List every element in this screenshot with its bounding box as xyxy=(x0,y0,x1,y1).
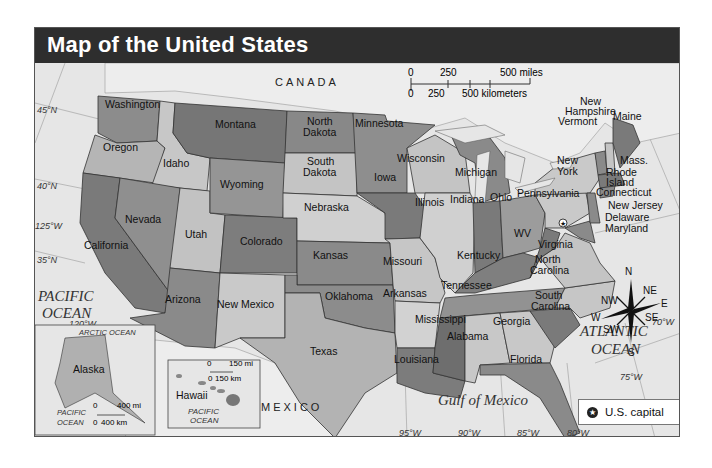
svg-text:85°W: 85°W xyxy=(517,428,541,437)
label-nevada: Nevada xyxy=(125,213,161,225)
label-iowa: Iowa xyxy=(374,171,396,183)
label-washington: Washington xyxy=(105,98,160,110)
svg-text:35°N: 35°N xyxy=(37,255,58,265)
label-oregon: Oregon xyxy=(103,141,138,153)
svg-text:80°W: 80°W xyxy=(567,428,591,437)
page-title: Map of the United States xyxy=(47,32,309,58)
label-west-virginia: WV xyxy=(514,227,531,239)
svg-text:ARCTIC OCEAN: ARCTIC OCEAN xyxy=(78,328,136,337)
label-new-jersey: New Jersey xyxy=(608,199,664,211)
label-mississippi: Mississippi xyxy=(415,313,466,325)
us-map: ★ CANADA MEXICO 0 250 500 miles 0 250 50… xyxy=(35,63,680,437)
svg-text:150 km: 150 km xyxy=(215,374,242,383)
label-arizona: Arizona xyxy=(165,293,201,305)
label-ohio: Ohio xyxy=(490,191,512,203)
state-kansas xyxy=(297,241,393,285)
label-virginia: Virginia xyxy=(538,238,573,250)
svg-text:NE: NE xyxy=(643,285,657,296)
svg-text:90°W: 90°W xyxy=(458,428,482,437)
label-south-carolina-2: Carolina xyxy=(531,300,570,312)
svg-text:OCEAN: OCEAN xyxy=(190,416,219,425)
svg-text:NW: NW xyxy=(601,295,618,306)
label-new-hampshire-2: Hampshire xyxy=(565,105,616,117)
label-gulf-of-mexico: Gulf of Mexico xyxy=(438,392,528,408)
label-louisiana: Louisiana xyxy=(394,353,439,365)
svg-text:40°N: 40°N xyxy=(37,181,58,191)
scale-km-0: 0 xyxy=(408,88,414,99)
label-kansas: Kansas xyxy=(313,249,348,261)
svg-text:0: 0 xyxy=(208,374,213,383)
svg-text:0: 0 xyxy=(207,359,212,368)
label-minnesota: Minnesota xyxy=(355,117,404,129)
label-illinois: Illinois xyxy=(415,196,444,208)
svg-text:400 km: 400 km xyxy=(101,418,128,427)
label-indiana: Indiana xyxy=(450,193,485,205)
svg-text:150 mi: 150 mi xyxy=(229,359,253,368)
label-rhode-island-2: Island xyxy=(606,176,634,188)
label-wyoming: Wyoming xyxy=(220,178,264,190)
label-idaho: Idaho xyxy=(163,157,189,169)
label-michigan: Michigan xyxy=(455,166,497,178)
label-maine: Maine xyxy=(613,110,642,122)
capital-star-icon: ★ xyxy=(587,407,598,418)
svg-text:Alaska: Alaska xyxy=(73,363,105,375)
scale-km-250: 250 xyxy=(428,88,445,99)
svg-text:★: ★ xyxy=(560,220,566,227)
label-colorado: Colorado xyxy=(240,235,283,247)
svg-text:95°W: 95°W xyxy=(399,428,423,437)
label-canada: CANADA xyxy=(275,76,339,88)
svg-text:S: S xyxy=(628,347,635,358)
label-tennessee: Tennessee xyxy=(441,279,492,291)
svg-text:75°W: 75°W xyxy=(620,372,644,382)
label-utah: Utah xyxy=(185,228,207,240)
label-oklahoma: Oklahoma xyxy=(325,290,373,302)
scale-mi-250: 250 xyxy=(440,67,457,78)
alaska-inset: ARCTIC OCEAN Alaska PACIFIC OCEAN 0 400 … xyxy=(35,325,155,435)
hawaii-inset: 0 150 mi 0 150 km Hawaii PACIFIC OCEAN xyxy=(168,359,260,428)
svg-text:45°N: 45°N xyxy=(37,105,58,115)
svg-text:0: 0 xyxy=(93,418,98,427)
map-frame: Map of the United States xyxy=(34,27,680,437)
svg-text:SE: SE xyxy=(645,312,659,323)
svg-text:E: E xyxy=(661,298,668,309)
label-south-dakota-2: Dakota xyxy=(303,166,336,178)
svg-text:OCEAN: OCEAN xyxy=(57,418,84,427)
svg-text:PACIFIC: PACIFIC xyxy=(188,407,219,416)
state-new-mexico xyxy=(215,273,285,348)
svg-text:400 mi: 400 mi xyxy=(117,401,141,410)
label-florida: Florida xyxy=(510,353,542,365)
label-kentucky: Kentucky xyxy=(457,249,501,261)
svg-text:PACIFIC: PACIFIC xyxy=(57,408,87,417)
label-arkansas: Arkansas xyxy=(383,287,427,299)
label-california: California xyxy=(84,239,129,251)
svg-text:Hawaii: Hawaii xyxy=(176,389,208,401)
svg-text:125°W: 125°W xyxy=(35,221,64,231)
scale-km-500: 500 kilometers xyxy=(462,88,527,99)
legend-box: ★ U.S. capital xyxy=(578,399,680,425)
label-new-york-2: York xyxy=(557,165,578,177)
label-north-carolina-2: Carolina xyxy=(530,264,569,276)
svg-text:0: 0 xyxy=(93,401,98,410)
label-nebraska: Nebraska xyxy=(304,201,349,213)
legend-label: U.S. capital xyxy=(605,406,664,418)
label-pacific-ocean-1: PACIFIC xyxy=(37,288,95,304)
label-mexico: MEXICO xyxy=(261,401,322,413)
label-maryland: Maryland xyxy=(605,222,648,234)
capital-star-icon: ★ xyxy=(559,219,567,227)
title-bar: Map of the United States xyxy=(35,28,679,63)
svg-text:N: N xyxy=(625,266,632,277)
label-delaware: Delaware xyxy=(605,211,650,223)
label-alabama: Alabama xyxy=(447,330,489,342)
label-wisconsin: Wisconsin xyxy=(397,152,445,164)
label-georgia: Georgia xyxy=(493,315,531,327)
label-pennsylvania: Pennsylvania xyxy=(517,187,580,199)
label-massachusetts: Mass. xyxy=(620,154,648,166)
label-north-dakota-2: Dakota xyxy=(303,126,336,138)
state-montana xyxy=(173,103,287,163)
label-montana: Montana xyxy=(215,118,256,130)
label-texas: Texas xyxy=(310,345,337,357)
svg-text:SW: SW xyxy=(603,324,620,335)
label-missouri: Missouri xyxy=(383,255,422,267)
label-new-mexico: New Mexico xyxy=(217,298,274,310)
scale-mi-500: 500 miles xyxy=(500,67,543,78)
